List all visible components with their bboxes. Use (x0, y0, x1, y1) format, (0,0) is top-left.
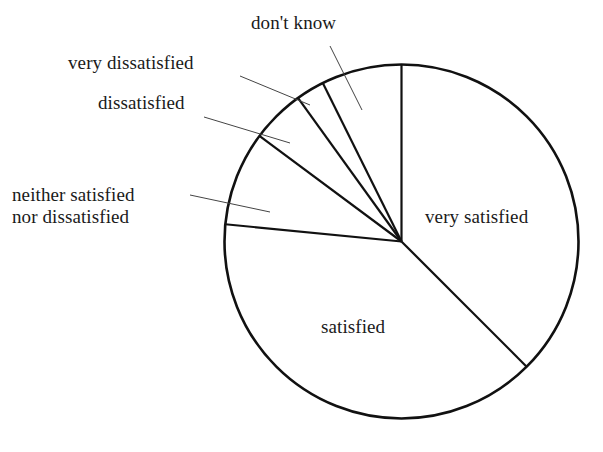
slice-label-dont-know: don't know (251, 12, 336, 34)
slice-label-neither-line1: neither satisfied (12, 184, 135, 205)
slice-label-neither-line2: nor dissatisfied (12, 206, 129, 227)
leader-line-very-dissatisfied (240, 76, 310, 105)
pie-chart-figure: don't know very dissatisfied dissatisfie… (0, 0, 603, 452)
slice-label-dissatisfied: dissatisfied (98, 92, 185, 114)
slice-label-very-dissatisfied: very dissatisfied (68, 52, 194, 74)
slice-label-very-satisfied: very satisfied (425, 206, 528, 228)
slice-label-neither-satisfied-nor-dissatisfied: neither satisfiednor dissatisfied (12, 184, 135, 228)
slice-label-satisfied: satisfied (321, 316, 385, 338)
